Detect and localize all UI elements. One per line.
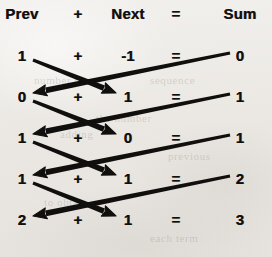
row-0-prev: 1	[18, 47, 26, 64]
row-0-next: -1	[121, 47, 134, 64]
row-4-prev: 2	[18, 211, 26, 228]
recurrence-grid: Prev + Next = Sum 1+-1=00+1=11+0=11+1=22…	[0, 0, 272, 257]
row-3-equals: =	[172, 170, 181, 187]
row-3-plus: +	[74, 170, 83, 187]
header-next: Next	[111, 5, 144, 22]
header-sum: Sum	[223, 5, 256, 22]
row-4-equals: =	[172, 211, 181, 228]
row-1-next: 1	[124, 88, 132, 105]
row-1-prev: 0	[18, 88, 26, 105]
header-prev: Prev	[5, 5, 38, 22]
row-4-sum: 3	[236, 211, 244, 228]
row-2-prev: 1	[18, 129, 26, 146]
row-1-sum: 1	[236, 88, 244, 105]
row-2-equals: =	[172, 129, 181, 146]
row-0-equals: =	[172, 47, 181, 64]
row-2-sum: 1	[236, 129, 244, 146]
row-3-prev: 1	[18, 170, 26, 187]
row-3-next: 1	[124, 170, 132, 187]
row-2-plus: +	[74, 129, 83, 146]
row-1-equals: =	[172, 88, 181, 105]
header-plus: +	[74, 5, 83, 22]
row-3-sum: 2	[236, 170, 244, 187]
row-1-plus: +	[74, 88, 83, 105]
header-equals: =	[172, 5, 181, 22]
row-4-plus: +	[74, 211, 83, 228]
row-4-next: 1	[124, 211, 132, 228]
row-0-plus: +	[74, 47, 83, 64]
row-2-next: 0	[124, 129, 132, 146]
row-0-sum: 0	[236, 47, 244, 64]
